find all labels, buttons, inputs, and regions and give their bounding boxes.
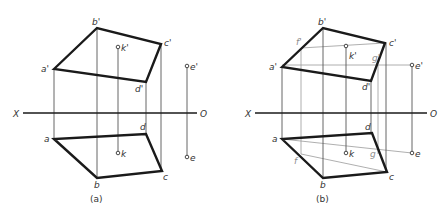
label-g: g [370, 149, 376, 159]
label-axis-o: O [200, 109, 207, 119]
panel-b: b' a' c' d' k' e' f' g' X O a d k e g f … [244, 17, 437, 204]
front-view-quad [54, 28, 161, 82]
label-axis-o: O [430, 109, 437, 119]
caption-b: (b) [316, 194, 329, 204]
label-c-prime: c' [164, 38, 171, 48]
top-view-quad [54, 134, 162, 178]
label-e: e [415, 149, 421, 159]
label-a: a [44, 134, 50, 144]
label-b-prime: b' [92, 17, 100, 27]
point-k-prime [116, 45, 120, 49]
label-a-prime: a' [41, 64, 49, 74]
label-axis-x: X [12, 109, 20, 119]
label-k-prime: k' [121, 43, 129, 53]
label-k-prime: k' [349, 51, 357, 61]
caption-a: (a) [90, 194, 103, 204]
label-c-prime: c' [389, 38, 396, 48]
label-a: a [272, 134, 278, 144]
label-a-prime: a' [269, 62, 277, 72]
point-e-prime [410, 63, 414, 67]
label-k: k [121, 149, 127, 159]
point-k [344, 151, 348, 155]
label-axis-x: X [244, 109, 252, 119]
projection-diagram: b' a' c' d' k' e' X O a d k e c b (a) [0, 0, 448, 214]
label-d: d [140, 122, 146, 132]
panel-a: b' a' c' d' k' e' X O a d k e c b (a) [12, 17, 207, 204]
label-k: k [349, 149, 355, 159]
point-e-prime [185, 64, 189, 68]
label-d-prime: d' [362, 82, 370, 92]
label-f-prime: f' [296, 37, 302, 47]
label-g-prime: g' [372, 53, 380, 63]
label-c: c [163, 172, 168, 182]
label-d: d [365, 122, 371, 132]
point-k-prime [344, 44, 348, 48]
construction-f-prime-c-prime [301, 43, 385, 48]
point-e [410, 151, 414, 155]
point-e [185, 155, 189, 159]
label-e-prime: e' [415, 61, 423, 71]
point-k [116, 151, 120, 155]
label-f: f [294, 156, 299, 166]
label-b-prime: b' [318, 17, 326, 27]
front-view-quad [282, 28, 385, 81]
label-c: c [389, 172, 394, 182]
label-b: b [320, 180, 326, 190]
construction-a-e [282, 139, 412, 153]
label-e: e [190, 153, 196, 163]
label-d-prime: d' [135, 84, 143, 94]
label-b: b [94, 180, 100, 190]
label-e-prime: e' [190, 62, 198, 72]
